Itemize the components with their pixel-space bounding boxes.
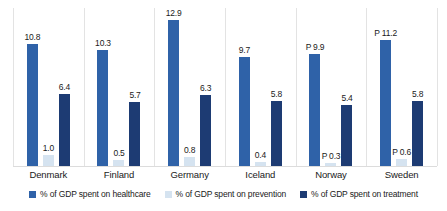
bar-value-label: 10.3 bbox=[95, 38, 111, 48]
bar-value-label: P 11.2 bbox=[374, 28, 397, 38]
bar-group: P 11.2P 0.65.8 bbox=[366, 8, 437, 166]
bar-rect bbox=[184, 157, 195, 166]
bar-group: P 9.9P 0.35.4 bbox=[296, 8, 367, 166]
category-label-finland: Finland bbox=[84, 169, 155, 181]
bar-group: 9.70.45.8 bbox=[225, 8, 296, 166]
bar-value-label: 0.5 bbox=[113, 148, 124, 158]
legend-swatch-icon bbox=[165, 191, 172, 198]
bar-value-label: 6.3 bbox=[200, 83, 211, 93]
legend-item[interactable]: % of GDP spent on prevention bbox=[165, 189, 286, 199]
category-label-iceland: Iceland bbox=[225, 169, 296, 181]
bar-value-label: 5.4 bbox=[341, 93, 352, 103]
bar-group: 12.90.86.3 bbox=[154, 8, 225, 166]
bar-value-label: P 0.3 bbox=[322, 151, 341, 161]
bar-group: 10.30.55.7 bbox=[84, 8, 155, 166]
bar-rect bbox=[168, 20, 179, 166]
legend-item[interactable]: % of GDP spent on treatment bbox=[300, 189, 418, 199]
x-axis-baseline bbox=[13, 166, 437, 167]
bar-rect bbox=[412, 101, 423, 166]
bar-value-label: 6.4 bbox=[59, 82, 70, 92]
category-label-sweden: Sweden bbox=[366, 169, 437, 181]
bar-rect bbox=[27, 44, 38, 166]
legend-swatch-icon bbox=[29, 191, 36, 198]
plot-area: 10.81.06.410.30.55.712.90.86.39.70.45.8P… bbox=[13, 8, 437, 166]
legend-item[interactable]: % of GDP spent on healthcare bbox=[29, 189, 150, 199]
bar-rect bbox=[396, 159, 407, 166]
category-label-denmark: Denmark bbox=[13, 169, 84, 181]
bar-rect bbox=[200, 95, 211, 166]
group-separator-line bbox=[437, 8, 438, 166]
legend-label: % of GDP spent on healthcare bbox=[40, 189, 150, 199]
bar-value-label: 5.8 bbox=[271, 89, 282, 99]
category-label-germany: Germany bbox=[154, 169, 225, 181]
grouped-bar-chart: 10.81.06.410.30.55.712.90.86.39.70.45.8P… bbox=[0, 0, 447, 211]
bar-value-label: 9.7 bbox=[239, 45, 250, 55]
chart-legend: % of GDP spent on healthcare% of GDP spe… bbox=[0, 189, 447, 199]
bar-value-label: 10.8 bbox=[24, 32, 40, 42]
bar-rect bbox=[380, 40, 391, 166]
legend-label: % of GDP spent on prevention bbox=[176, 189, 286, 199]
bar-value-label: 5.7 bbox=[129, 90, 140, 100]
bar-rect bbox=[309, 54, 320, 166]
bar-rect bbox=[129, 102, 140, 166]
legend-label: % of GDP spent on treatment bbox=[311, 189, 418, 199]
legend-swatch-icon bbox=[300, 191, 307, 198]
bar-rect bbox=[59, 94, 70, 166]
bar-rect bbox=[43, 155, 54, 166]
bar-value-label: 5.8 bbox=[412, 89, 423, 99]
bar-group: 10.81.06.4 bbox=[13, 8, 84, 166]
bar-rect bbox=[271, 101, 282, 166]
bar-value-label: 1.0 bbox=[43, 143, 54, 153]
category-label-norway: Norway bbox=[296, 169, 367, 181]
bar-value-label: 12.9 bbox=[166, 8, 182, 18]
bar-rect bbox=[97, 50, 108, 166]
bar-value-label: 0.8 bbox=[184, 145, 195, 155]
bar-value-label: 0.4 bbox=[255, 150, 266, 160]
bar-rect bbox=[239, 57, 250, 166]
bar-rect bbox=[341, 105, 352, 166]
bar-value-label: P 9.9 bbox=[306, 42, 325, 52]
bar-value-label: P 0.6 bbox=[392, 147, 411, 157]
